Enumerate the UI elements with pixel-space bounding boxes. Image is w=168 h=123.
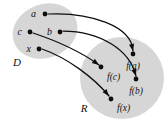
node-dot-fx xyxy=(109,97,114,102)
set-label-domain: D xyxy=(12,56,21,68)
node-label-fx: f(x) xyxy=(117,103,130,114)
node-label-fb: f(b) xyxy=(129,86,143,97)
node-dot-b xyxy=(58,30,63,35)
node-dot-fc xyxy=(99,65,104,70)
node-dot-a xyxy=(43,12,48,17)
node-dot-x xyxy=(37,47,42,52)
node-label-c: c xyxy=(18,26,23,37)
node-dot-fa xyxy=(131,52,136,57)
node-label-a: a xyxy=(31,8,36,19)
node-dot-c xyxy=(28,30,33,35)
function-mapping-figure: a c b x f(a) f(c) f(b) f(x) D R xyxy=(0,0,168,123)
node-label-b: b xyxy=(47,26,52,37)
node-label-fc: f(c) xyxy=(107,72,120,83)
node-label-fa: f(a) xyxy=(126,61,140,72)
node-label-x: x xyxy=(26,43,32,54)
figure-canvas: a c b x f(a) f(c) f(b) f(x) D R xyxy=(0,0,168,123)
node-dot-fb xyxy=(134,77,139,82)
set-label-range: R xyxy=(80,102,88,114)
